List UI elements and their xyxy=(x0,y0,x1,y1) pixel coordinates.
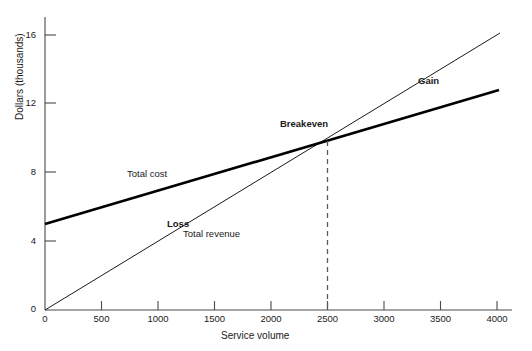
y-tick-label-0: 0 xyxy=(18,304,36,314)
y-tick-label-16: 16 xyxy=(18,30,36,40)
x-tick-label-4000: 4000 xyxy=(480,314,514,324)
annotation-gain: Gain xyxy=(418,76,439,86)
x-axis-title: Service volume xyxy=(221,331,289,341)
x-tick-label-1500: 1500 xyxy=(198,314,232,324)
x-tick-label-3000: 3000 xyxy=(367,314,401,324)
x-tick-label-500: 500 xyxy=(86,314,117,324)
breakeven-chart: Dollars (thousands) 16 12 8 4 0 0 500 10… xyxy=(0,0,532,351)
series-line-total-cost xyxy=(45,90,499,224)
x-tick-label-0: 0 xyxy=(33,314,57,324)
annotation-total-cost: Total cost xyxy=(127,169,167,179)
y-tick-label-4: 4 xyxy=(18,236,36,246)
chart-canvas xyxy=(0,0,532,351)
y-tick-marks xyxy=(45,35,56,241)
x-tick-marks xyxy=(102,301,498,310)
x-tick-label-1000: 1000 xyxy=(141,314,175,324)
x-tick-label-3500: 3500 xyxy=(424,314,458,324)
y-tick-label-12: 12 xyxy=(18,98,36,108)
annotation-breakeven: Breakeven xyxy=(280,119,328,129)
y-tick-label-8: 8 xyxy=(18,167,36,177)
x-tick-label-2500: 2500 xyxy=(311,314,345,324)
x-tick-label-2000: 2000 xyxy=(254,314,288,324)
annotation-total-revenue: Total revenue xyxy=(183,229,240,239)
